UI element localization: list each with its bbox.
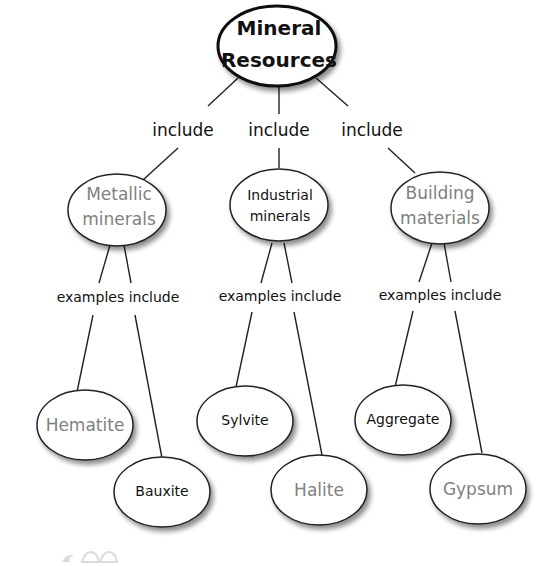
concept-map: Mineral Resources include include includ… [0, 0, 549, 566]
connector-examples-hematite [77, 315, 93, 392]
example-node-hematite: Hematite [37, 390, 133, 460]
connector-examples-sylvite [236, 312, 252, 387]
example-node-sylvite: Sylvite [197, 386, 293, 456]
category-label-line2: minerals [250, 208, 311, 224]
example-label: Halite [294, 480, 344, 500]
connector-industrial-examples-b [284, 243, 292, 283]
faint-logo-icon [62, 552, 117, 562]
category-node-building: Building materials [391, 172, 489, 244]
category-ellipse [230, 169, 328, 241]
connector-metallic-examples-a [99, 245, 110, 283]
connector-root-include-1 [208, 78, 238, 106]
include-label-3: include [341, 120, 403, 140]
example-label: Bauxite [135, 483, 188, 499]
category-label-line2: minerals [82, 209, 156, 229]
category-label-line1: Metallic [86, 184, 152, 204]
example-label: Sylvite [221, 412, 268, 428]
category-label-line1: Building [406, 183, 475, 203]
root-label-line1: Mineral [237, 16, 322, 40]
example-node-gypsum: Gypsum [430, 454, 526, 524]
example-label: Aggregate [367, 411, 440, 427]
connector-examples-gypsum [455, 311, 482, 453]
connector-root-include-3 [316, 78, 348, 106]
connector-examples-bauxite [135, 315, 162, 458]
connector-include-3-building [388, 148, 415, 173]
connector-building-examples-a [419, 243, 432, 282]
example-label: Gypsum [443, 479, 513, 499]
examples-label-1: examples include [57, 289, 180, 305]
example-node-bauxite: Bauxite [114, 457, 210, 527]
connector-examples-halite [294, 312, 322, 455]
connector-examples-aggregate [395, 311, 413, 387]
category-label-line2: materials [400, 208, 480, 228]
root-node: Mineral Resources [218, 6, 337, 86]
include-label-2: include [248, 120, 310, 140]
connector-building-examples-b [444, 243, 451, 282]
category-node-industrial: Industrial minerals [230, 169, 328, 241]
connector-metallic-examples-b [124, 245, 131, 283]
include-label-1: include [152, 120, 214, 140]
examples-label-2: examples include [219, 288, 342, 304]
root-label-line2: Resources [221, 48, 337, 72]
example-node-aggregate: Aggregate [355, 385, 451, 455]
category-label-line1: Industrial [247, 187, 313, 203]
example-node-halite: Halite [271, 455, 367, 525]
example-label: Hematite [46, 415, 125, 435]
connector-industrial-examples-a [261, 243, 272, 283]
connector-include-1-metallic [143, 148, 178, 180]
category-node-metallic: Metallic minerals [68, 174, 166, 246]
examples-label-3: examples include [379, 287, 502, 303]
